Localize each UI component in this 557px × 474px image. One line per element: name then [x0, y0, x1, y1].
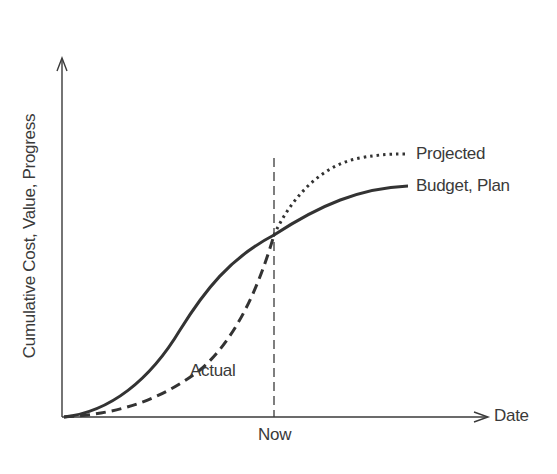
y-axis-label: Cumulative Cost, Value, Progress — [20, 114, 40, 358]
budget-plan-curve — [64, 186, 408, 417]
x-axis-label: Date — [494, 406, 529, 426]
x-axis — [62, 412, 488, 422]
actual-label: Actual — [190, 361, 235, 381]
budget-plan-label: Budget, Plan — [416, 176, 510, 196]
y-axis — [57, 58, 67, 417]
projected-label: Projected — [416, 144, 485, 164]
s-curve-chart — [0, 0, 557, 474]
now-label: Now — [258, 425, 291, 445]
actual-curve — [64, 235, 274, 417]
